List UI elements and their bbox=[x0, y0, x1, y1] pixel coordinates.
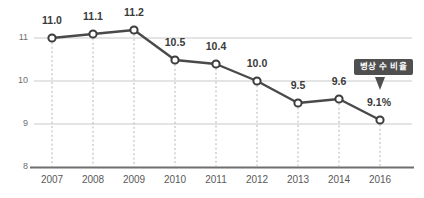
x-tick-label-2012: 2012 bbox=[237, 174, 277, 185]
x-tick-label-2010: 2010 bbox=[155, 174, 195, 185]
series-callout-label: 병상 수 비율 bbox=[354, 59, 413, 75]
x-tick-label-2016: 2016 bbox=[360, 174, 400, 185]
point-label-2009: 11.2 bbox=[114, 6, 154, 18]
x-tick-label-2009: 2009 bbox=[114, 174, 154, 185]
point-label-2012: 10.0 bbox=[237, 57, 277, 69]
y-tick-label-8: 8 bbox=[6, 161, 28, 171]
plot-area: 11 10 9 8 2007 2008 2009 2010 2011 2012 … bbox=[0, 0, 424, 198]
callout-arrow-icon bbox=[375, 77, 385, 90]
point-label-2016: 9.1% bbox=[359, 96, 399, 108]
point-label-2007: 11.0 bbox=[32, 14, 72, 26]
point-label-2011: 10.4 bbox=[196, 40, 236, 52]
y-tick-label-10: 10 bbox=[6, 75, 28, 85]
x-tick-label-2008: 2008 bbox=[73, 174, 113, 185]
point-label-2013: 9.5 bbox=[278, 79, 318, 91]
point-label-2010: 10.5 bbox=[155, 36, 195, 48]
x-tick-label-2007: 2007 bbox=[32, 174, 72, 185]
x-tick-label-2014: 2014 bbox=[319, 174, 359, 185]
x-tick-label-2011: 2011 bbox=[196, 174, 236, 185]
point-label-2008: 11.1 bbox=[73, 10, 113, 22]
y-tick-label-11: 11 bbox=[6, 32, 28, 42]
y-tick-label-9: 9 bbox=[6, 118, 28, 128]
line-chart: 11 10 9 8 2007 2008 2009 2010 2011 2012 … bbox=[0, 0, 424, 198]
x-tick-label-2013: 2013 bbox=[278, 174, 318, 185]
point-label-2014: 9.6 bbox=[319, 75, 359, 87]
